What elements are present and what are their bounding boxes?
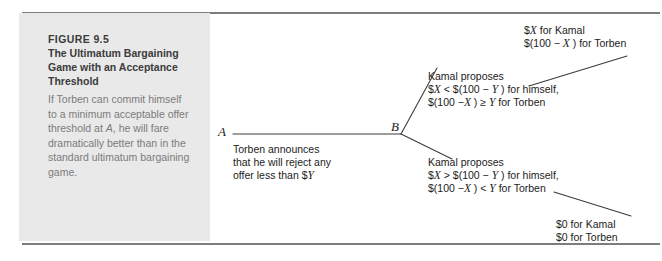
caption-text-block: FIGURE 9.5 The Ultimatum Bargaining Game…: [48, 32, 220, 180]
figure-body-line-6: game.: [48, 166, 77, 178]
figure-page: FIGURE 9.5 The Ultimatum Bargaining Game…: [0, 0, 662, 261]
payoff-reject-line-1: $0 for Kamal: [556, 218, 616, 230]
node-label-a: A: [218, 124, 226, 140]
kamal-proposes-reject-text: Kamal proposes $X > $(100 − Y ) for hims…: [428, 156, 559, 196]
connector-reject-payoff: [554, 192, 631, 216]
kamal-proposes-accept-line-1: Kamal proposes: [428, 70, 504, 82]
torben-announcement-text: Torben announces that he will reject any…: [233, 143, 331, 183]
torben-announcement-line-2: that he will reject any: [233, 156, 331, 168]
payoff-reject-line-2: $0 for Torben: [556, 231, 618, 243]
figure-title: The Ultimatum Bargaining Game with an Ac…: [48, 46, 220, 88]
figure-body-line-3: threshold at A, he will fare: [48, 122, 169, 134]
kamal-proposes-reject-line-1: Kamal proposes: [428, 156, 504, 168]
figure-title-line-2: Game with an Acceptance: [48, 61, 178, 73]
caption-panel: FIGURE 9.5 The Ultimatum Bargaining Game…: [19, 13, 210, 241]
figure-title-line-3: Threshold: [48, 75, 99, 87]
figure-number: FIGURE 9.5: [48, 32, 220, 46]
figure-body-italic-a: A: [106, 122, 113, 134]
figure-title-line-1: The Ultimatum Bargaining: [48, 47, 179, 59]
figure-caption-body: If Torben can commit himself to a minimu…: [48, 92, 220, 180]
figure-body-line-1: If Torben can commit himself: [48, 93, 181, 105]
kamal-proposes-reject-line-3: $(100 −X ) < Y for Torben: [428, 182, 546, 194]
figure-body-line-4: dramatically better than in the: [48, 137, 186, 149]
figure-body-line-2: to a minimum acceptable offer: [48, 108, 188, 120]
kamal-proposes-reject-line-2: $X > $(100 − Y ) for himself,: [428, 169, 559, 181]
torben-announcement-line-3: offer less than $Y: [233, 169, 314, 181]
payoff-reject-text: $0 for Kamal $0 for Torben: [556, 218, 618, 244]
kamal-proposes-accept-line-2: $X < $(100 − Y ) for himself,: [428, 83, 559, 95]
node-label-b: B: [391, 119, 399, 135]
payoff-accept-line-2: $(100 − X ) for Torben: [524, 37, 626, 49]
torben-announcement-line-1: Torben announces: [233, 143, 319, 155]
payoff-accept-text: $X for Kamal $(100 − X ) for Torben: [524, 24, 626, 50]
kamal-proposes-accept-line-3: $(100 −X ) ≥ Y for Torben: [428, 96, 545, 108]
figure-body-line-5: standard ultimatum bargaining: [48, 151, 189, 163]
kamal-proposes-accept-text: Kamal proposes $X < $(100 − Y ) for hims…: [428, 70, 559, 110]
payoff-accept-line-1: $X for Kamal: [524, 24, 585, 36]
